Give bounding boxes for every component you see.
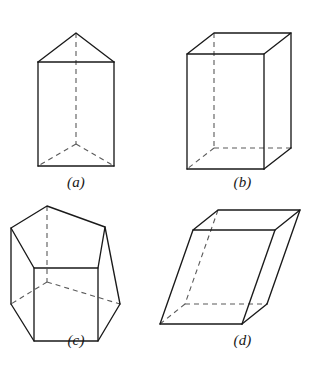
figure-caption-c: (c) bbox=[0, 332, 152, 349]
figure-a-triangular-prism: (a) bbox=[0, 22, 152, 190]
front-face-b bbox=[187, 54, 264, 169]
figure-c-pentagonal-prism: (c) bbox=[0, 196, 152, 374]
figure-caption-d: (d) bbox=[160, 332, 325, 349]
figure-caption-a: (a) bbox=[0, 174, 152, 191]
front-face-c bbox=[34, 268, 98, 341]
figure-caption-b: (b) bbox=[160, 174, 325, 191]
right-face-b bbox=[264, 33, 291, 169]
figure-b-rectangular-prism: (b) bbox=[160, 22, 325, 190]
triangular-prism-drawing bbox=[0, 22, 152, 190]
figure-d-oblique-prism: (d) bbox=[160, 196, 325, 374]
prism-figure-plate: (a) (b) bbox=[0, 0, 325, 374]
rectangular-prism-drawing bbox=[160, 22, 325, 190]
